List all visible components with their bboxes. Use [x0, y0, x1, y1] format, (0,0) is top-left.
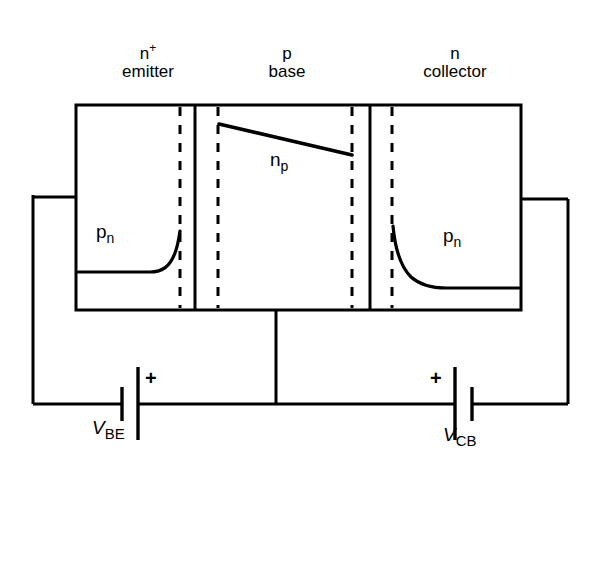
region-name-emitter: emitter — [122, 63, 174, 81]
carrier-label-emitter-pn: pn — [96, 222, 114, 242]
cb-source-polarity-plus: + — [430, 368, 442, 389]
region-doping-emitter: n+ — [122, 45, 174, 63]
region-name-collector: collector — [423, 63, 486, 81]
be-source-polarity-plus: + — [145, 368, 157, 389]
cb-source-label: VCB — [443, 425, 477, 445]
region-label-collector: n collector — [423, 45, 486, 81]
device-outline-box — [76, 105, 521, 310]
be-source-label: VBE — [92, 418, 125, 438]
region-name-base: base — [269, 63, 306, 81]
region-label-emitter: n+ emitter — [122, 45, 174, 81]
carrier-label-collector-pn: pn — [443, 226, 461, 246]
figure-canvas: n+ emitter p base n collector pn np pn +… — [0, 0, 601, 565]
carrier-label-base-np: np — [270, 150, 288, 170]
diagram-svg — [0, 0, 601, 565]
region-doping-base: p — [269, 45, 306, 63]
region-doping-collector: n — [423, 45, 486, 63]
region-label-base: p base — [269, 45, 306, 81]
emitter-minority-carrier-curve — [78, 231, 180, 272]
